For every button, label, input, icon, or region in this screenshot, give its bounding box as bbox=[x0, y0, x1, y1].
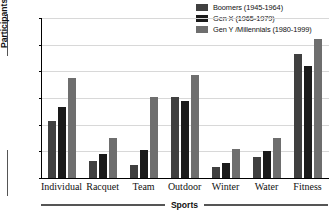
x-axis-title: Sports bbox=[165, 200, 204, 210]
x-axis-tick-label: Team bbox=[123, 181, 164, 192]
bar-group bbox=[287, 18, 328, 178]
legend-label: Boomers (1945-1964) bbox=[213, 3, 283, 12]
bar-groups bbox=[41, 18, 328, 178]
bar bbox=[48, 121, 56, 178]
bar-chart-screenshot: Boomers (1945-1964)Gen X (1965-1979)Gen … bbox=[0, 0, 333, 221]
bar bbox=[294, 54, 302, 178]
x-axis-tick-label: Winter bbox=[205, 181, 246, 192]
x-axis-title-row: Sports bbox=[41, 200, 328, 210]
legend-swatch-icon bbox=[196, 4, 208, 11]
bar bbox=[171, 97, 179, 178]
bar bbox=[68, 78, 76, 178]
bar bbox=[140, 150, 148, 178]
legend-item: Boomers (1945-1964) bbox=[196, 2, 331, 12]
x-axis-tick-label: Racquet bbox=[82, 181, 123, 192]
bar-group bbox=[41, 18, 82, 178]
bar bbox=[304, 66, 312, 178]
x-axis-rule-right bbox=[204, 204, 328, 205]
x-axis-rule-left bbox=[41, 204, 165, 205]
bar-group bbox=[205, 18, 246, 178]
y-axis-title: Participants (in Millions) bbox=[0, 0, 9, 48]
x-axis-tick-label: Outdoor bbox=[164, 181, 205, 192]
bar bbox=[273, 138, 281, 178]
bar bbox=[58, 107, 66, 178]
y-axis-rule-lower bbox=[7, 150, 8, 196]
bar bbox=[212, 167, 220, 178]
y-axis-tick-mark bbox=[39, 178, 42, 179]
x-axis-tick-label: Individual bbox=[41, 181, 82, 192]
bar-group bbox=[246, 18, 287, 178]
bar bbox=[109, 138, 117, 178]
bar-group bbox=[82, 18, 123, 178]
bar-group bbox=[123, 18, 164, 178]
x-axis-tick-label: Fitness bbox=[287, 181, 328, 192]
bar bbox=[232, 149, 240, 178]
bar bbox=[222, 163, 230, 178]
x-axis-tick-label: Water bbox=[246, 181, 287, 192]
bar bbox=[191, 75, 199, 178]
bar bbox=[253, 157, 261, 178]
bar bbox=[99, 154, 107, 178]
bar bbox=[263, 151, 271, 178]
bar-group bbox=[164, 18, 205, 178]
bar bbox=[130, 165, 138, 178]
bar bbox=[314, 39, 322, 178]
bar bbox=[181, 101, 189, 178]
bar bbox=[150, 97, 158, 178]
bar bbox=[89, 161, 97, 178]
x-axis-tick-labels: IndividualRacquetTeamOutdoorWinterWaterF… bbox=[41, 181, 328, 192]
